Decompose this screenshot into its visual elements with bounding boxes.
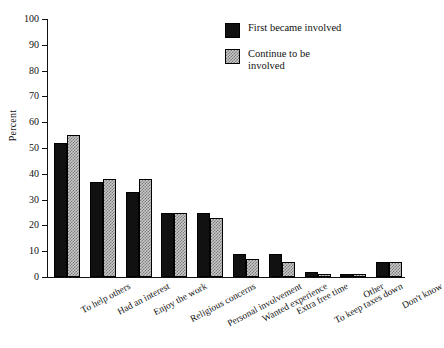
y-tick: [42, 225, 47, 226]
legend-label: First became involved: [248, 22, 341, 34]
bar: [54, 143, 67, 277]
y-tick: [42, 45, 47, 46]
y-tick-label: 0: [13, 272, 39, 282]
y-tick-label: 90: [13, 40, 39, 50]
y-axis-line: [47, 19, 48, 277]
bar-group: [126, 19, 152, 277]
x-axis-line: [47, 277, 405, 278]
legend-item: First became involved: [225, 22, 343, 38]
bar: [340, 274, 353, 277]
y-tick-label: 40: [13, 169, 39, 179]
y-tick: [42, 71, 47, 72]
y-tick-label: 70: [13, 91, 39, 101]
y-tick-label: 60: [13, 117, 39, 127]
y-tick-label: 10: [13, 246, 39, 256]
bar-group: [197, 19, 223, 277]
bar: [103, 179, 116, 277]
y-tick: [42, 19, 47, 20]
y-tick: [42, 96, 47, 97]
bar-group: [90, 19, 116, 277]
y-tick: [42, 122, 47, 123]
x-axis-label: Don't know: [400, 281, 444, 311]
y-tick: [42, 174, 47, 175]
y-tick-label: 20: [13, 220, 39, 230]
bar: [90, 182, 103, 277]
bar: [210, 218, 223, 277]
y-tick: [42, 200, 47, 201]
bar-group: [161, 19, 187, 277]
y-tick-label: 100: [13, 14, 39, 24]
y-tick-label: 30: [13, 195, 39, 205]
bar: [139, 179, 152, 277]
bar-group: [340, 19, 366, 277]
bar: [389, 262, 402, 277]
legend: First became involved Continue to be inv…: [225, 22, 343, 81]
bar: [269, 254, 282, 277]
bar: [197, 213, 210, 278]
y-tick: [42, 277, 47, 278]
legend-swatch-first-became-involved: [225, 23, 240, 38]
y-tick-label: 50: [13, 143, 39, 153]
bar: [305, 272, 318, 277]
bar: [126, 192, 139, 277]
y-tick: [42, 251, 47, 252]
bar: [376, 262, 389, 277]
bar: [67, 135, 80, 277]
bar: [353, 274, 366, 277]
bar-group: [376, 19, 402, 277]
bar: [161, 213, 174, 278]
bar: [233, 254, 246, 277]
y-tick: [42, 148, 47, 149]
bar: [318, 274, 331, 277]
bar: [282, 262, 295, 277]
y-tick-label: 80: [13, 66, 39, 76]
bar: [174, 213, 187, 278]
bar: [246, 259, 259, 277]
bar-group: [54, 19, 80, 277]
legend-swatch-continue-to-be-involved: [225, 49, 240, 64]
legend-label: Continue to be involved: [248, 48, 343, 71]
legend-item: Continue to be involved: [225, 48, 343, 71]
